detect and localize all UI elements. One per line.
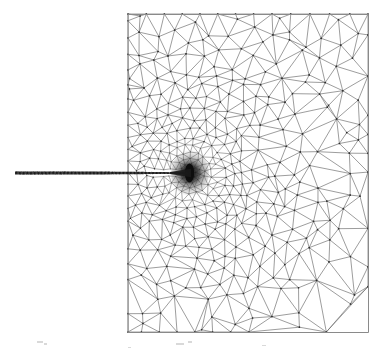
- mesh-figure: [0, 0, 389, 350]
- finite-element-mesh-canvas: [0, 0, 389, 350]
